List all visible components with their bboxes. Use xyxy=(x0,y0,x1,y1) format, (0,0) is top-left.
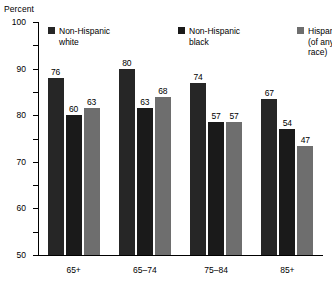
bar[interactable]: 76 xyxy=(48,78,64,255)
legend-item[interactable]: Hispanic (of any race) xyxy=(297,26,332,58)
bar[interactable]: 60 xyxy=(66,115,82,255)
bar-value-label: 76 xyxy=(51,68,60,77)
y-axis-line xyxy=(38,22,39,256)
y-axis-tick-label: 100 xyxy=(2,18,26,27)
bar[interactable]: 57 xyxy=(208,122,224,255)
bar-value-label: 57 xyxy=(229,112,238,121)
y-axis-tick-label: 70 xyxy=(2,158,26,167)
bar-value-label: 67 xyxy=(265,89,274,98)
x-axis-label: 65+ xyxy=(66,266,80,275)
bar[interactable]: 74 xyxy=(190,83,206,255)
bar-value-label: 57 xyxy=(211,112,220,121)
bar[interactable]: 63 xyxy=(137,108,153,255)
bar[interactable]: 63 xyxy=(84,108,100,255)
legend-label: Hispanic (of any race) xyxy=(308,26,332,58)
y-axis-tick: 100 xyxy=(33,22,38,23)
y-axis-tick: 90 xyxy=(33,45,38,46)
plot-area: 0102030405060708090100 76606380636874575… xyxy=(38,22,323,256)
legend-item[interactable]: Non-Hispanic black xyxy=(178,26,240,47)
y-axis-tick: 0 xyxy=(33,255,38,256)
bar-value-label: 60 xyxy=(69,105,78,114)
y-axis-tick: 20 xyxy=(33,208,38,209)
x-axis-line xyxy=(38,255,323,256)
bar-value-label: 47 xyxy=(301,136,310,145)
bar-chart: Percent 0102030405060708090100 766063806… xyxy=(0,0,332,287)
y-axis-tick-label: 80 xyxy=(2,111,26,120)
bar[interactable]: 68 xyxy=(155,97,171,255)
y-axis-tick: 50 xyxy=(33,139,38,140)
y-axis-tick-label: 60 xyxy=(2,204,26,213)
legend-swatch-icon xyxy=(48,27,55,34)
legend-label: Non-Hispanic white xyxy=(59,26,110,47)
bar[interactable]: 80 xyxy=(119,69,135,255)
y-axis-tick: 40 xyxy=(33,162,38,163)
x-axis-label: 85+ xyxy=(280,266,294,275)
bar[interactable]: 67 xyxy=(261,99,277,255)
legend-label: Non-Hispanic black xyxy=(189,26,240,47)
y-axis-tick: 30 xyxy=(33,185,38,186)
y-axis-tick: 70 xyxy=(33,92,38,93)
y-axis-tick-label: 90 xyxy=(2,64,26,73)
bar-value-label: 68 xyxy=(158,87,167,96)
legend-swatch-icon xyxy=(297,27,304,34)
legend: Non-Hispanic whiteNon-Hispanic blackHisp… xyxy=(48,26,328,52)
y-axis-tick: 80 xyxy=(33,69,38,70)
y-axis-tick: 60 xyxy=(33,115,38,116)
bar-value-label: 54 xyxy=(283,119,292,128)
y-axis-tick-label: 50 xyxy=(2,251,26,260)
bar[interactable]: 57 xyxy=(226,122,242,255)
bar-value-label: 63 xyxy=(140,98,149,107)
legend-item[interactable]: Non-Hispanic white xyxy=(48,26,110,47)
legend-swatch-icon xyxy=(178,27,185,34)
x-axis-label: 65–74 xyxy=(133,266,157,275)
bar-value-label: 80 xyxy=(122,59,131,68)
bar-value-label: 74 xyxy=(193,73,202,82)
bar-value-label: 63 xyxy=(87,98,96,107)
bar[interactable]: 47 xyxy=(297,146,313,256)
y-axis-tick: 10 xyxy=(33,232,38,233)
y-axis-title: Percent xyxy=(4,4,34,14)
x-axis-label: 75–84 xyxy=(204,266,228,275)
bar[interactable]: 54 xyxy=(279,129,295,255)
